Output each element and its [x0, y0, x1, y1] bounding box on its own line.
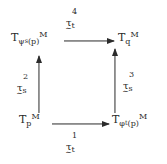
- node-base-letter: T: [118, 31, 125, 44]
- arrow-label-subscript: s: [129, 85, 133, 93]
- arrow-label-bottom: τ ∼ t 1: [66, 141, 75, 154]
- tilde-accent-icon: ∼: [65, 149, 72, 157]
- arrow-top-head: [107, 38, 115, 44]
- commutative-diagram: Tψs(p)M TqM TpM Tφt(p)M τ ∼ t 4: [0, 0, 167, 164]
- arrow-right-head: [112, 48, 118, 56]
- node-subscript-q: q: [125, 38, 130, 46]
- node-tangent-space-psi-s-p: Tψs(p)M: [11, 31, 48, 46]
- arrow-right-shaft: [114, 49, 115, 113]
- arrow-label-superscript: 2: [23, 73, 28, 81]
- arrow-label-subscript: t: [72, 22, 75, 30]
- arrow-label-superscript: 1: [72, 132, 77, 140]
- arrow-left: [34, 56, 43, 113]
- arrow-bottom-shaft: [52, 123, 109, 124]
- arrow-top: [64, 36, 114, 45]
- node-manifold-letter: M: [130, 31, 138, 39]
- node-base-letter: T: [11, 31, 18, 44]
- node-subscript-argument: (p): [128, 120, 139, 128]
- arrow-label-superscript: 4: [72, 8, 77, 16]
- arrow-left-shaft: [38, 56, 39, 113]
- tau-symbol-group: τ ∼: [123, 80, 129, 91]
- tau-symbol-group: τ ∼: [17, 82, 23, 93]
- arrow-left-head: [36, 55, 42, 63]
- tilde-accent-icon: ∼: [122, 88, 129, 96]
- arrow-label-top: τ ∼ t 4: [66, 17, 75, 30]
- node-base-letter: T: [19, 113, 26, 126]
- node-manifold-letter: M: [39, 31, 47, 39]
- node-subscript-argument: (p): [28, 38, 39, 46]
- node-manifold-letter: M: [139, 113, 147, 121]
- arrow-label-left: τ ∼ s 2: [17, 82, 27, 95]
- node-tangent-space-q: TqM: [118, 31, 139, 46]
- node-tangent-space-phi-t-p: Tφt(p)M: [112, 113, 147, 128]
- tau-symbol-group: τ ∼: [66, 17, 72, 28]
- arrow-label-right: τ ∼ s 3: [123, 80, 133, 93]
- arrow-bottom-head: [102, 121, 110, 127]
- tilde-accent-icon: ∼: [16, 90, 23, 98]
- node-tangent-space-p: TpM: [19, 113, 40, 128]
- arrow-bottom: [52, 119, 109, 128]
- tau-symbol-group: τ ∼: [66, 141, 72, 152]
- arrow-label-subscript: t: [72, 146, 75, 154]
- tilde-accent-icon: ∼: [65, 25, 72, 33]
- node-manifold-letter: M: [31, 113, 39, 121]
- arrow-label-superscript: 3: [129, 71, 134, 79]
- node-subscript-p: p: [26, 120, 31, 128]
- arrow-label-subscript: s: [23, 87, 27, 95]
- arrow-right: [110, 49, 119, 113]
- node-base-letter: T: [112, 113, 119, 126]
